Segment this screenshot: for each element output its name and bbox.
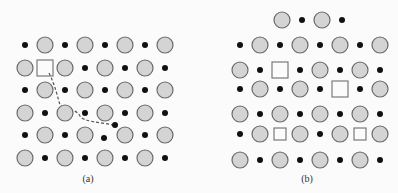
- cation-dot: [317, 131, 323, 137]
- cation-dot: [122, 65, 128, 71]
- cation-dot: [62, 42, 68, 48]
- cation-dot: [62, 87, 68, 93]
- cation-dot: [102, 42, 108, 48]
- anion-circle: [312, 152, 328, 168]
- anion-circle: [137, 150, 153, 166]
- lattice-diagram: [0, 0, 398, 193]
- cation-dot: [42, 155, 48, 161]
- anion-circle: [352, 152, 368, 168]
- cation-dot: [357, 42, 363, 48]
- cation-dot: [162, 110, 168, 116]
- anion-circle: [252, 37, 268, 53]
- cation-dot: [337, 67, 343, 73]
- cation-dot: [82, 65, 88, 71]
- cation-vacancy-square: [274, 128, 286, 140]
- cation-dot: [237, 86, 243, 92]
- cation-dot: [112, 122, 118, 128]
- anion-circle: [117, 37, 133, 53]
- cation-dot: [62, 132, 68, 138]
- cation-dot: [337, 157, 343, 163]
- cation-dot: [337, 111, 343, 117]
- anion-circle: [292, 81, 308, 97]
- anion-circle: [274, 12, 290, 28]
- anion-circle: [57, 60, 73, 76]
- anion-circle: [97, 105, 113, 121]
- anion-circle: [292, 37, 308, 53]
- cation-dot: [162, 155, 168, 161]
- cation-dot: [22, 87, 28, 93]
- anion-circle: [232, 152, 248, 168]
- cation-dot: [297, 111, 303, 117]
- panel-b-label: (b): [301, 173, 313, 184]
- cation-dot: [299, 17, 305, 23]
- cation-dot: [237, 42, 243, 48]
- cation-dot: [82, 155, 88, 161]
- anion-circle: [272, 106, 288, 122]
- anion-circle: [37, 37, 53, 53]
- cation-dot: [101, 135, 107, 141]
- anion-circle: [157, 37, 173, 53]
- anion-circle: [77, 37, 93, 53]
- anion-circle: [272, 152, 288, 168]
- anion-circle: [117, 127, 133, 143]
- anion-circle: [252, 81, 268, 97]
- anion-circle: [97, 60, 113, 76]
- anion-circle: [17, 60, 33, 76]
- cation-dot: [162, 65, 168, 71]
- anion-circle: [232, 106, 248, 122]
- cation-dot: [257, 157, 263, 163]
- anion-circle: [352, 106, 368, 122]
- cation-dot: [277, 86, 283, 92]
- anion-circle: [77, 82, 93, 98]
- anion-vacancy-square: [272, 62, 288, 78]
- anion-circle: [57, 150, 73, 166]
- cation-dot: [317, 86, 323, 92]
- anion-vacancy-square: [37, 60, 53, 76]
- anion-circle: [312, 106, 328, 122]
- anion-circle: [37, 127, 53, 143]
- anion-circle: [292, 126, 308, 142]
- panel-a-label: (a): [82, 173, 93, 184]
- anion-circle: [252, 126, 268, 142]
- cation-dot: [142, 42, 148, 48]
- anion-circle: [97, 150, 113, 166]
- anion-circle: [37, 82, 53, 98]
- anion-circle: [137, 60, 153, 76]
- anion-circle: [157, 82, 173, 98]
- anion-circle: [232, 62, 248, 78]
- anion-circle: [77, 127, 93, 143]
- anion-circle: [17, 150, 33, 166]
- anion-circle: [372, 37, 388, 53]
- cation-dot: [22, 42, 28, 48]
- anion-circle: [314, 12, 330, 28]
- cation-dot: [357, 86, 363, 92]
- anion-circle: [332, 126, 348, 142]
- anion-circle: [137, 105, 153, 121]
- cation-dot: [82, 110, 88, 116]
- cation-dot: [339, 17, 345, 23]
- anion-circle: [312, 62, 328, 78]
- cation-dot: [42, 110, 48, 116]
- cation-dot: [142, 132, 148, 138]
- cation-dot: [297, 67, 303, 73]
- anion-circle: [117, 82, 133, 98]
- panel-a-lattice: [17, 37, 173, 166]
- anion-circle: [352, 62, 368, 78]
- cation-dot: [377, 111, 383, 117]
- cation-dot: [122, 110, 128, 116]
- cation-dot: [237, 131, 243, 137]
- cation-dot: [317, 42, 323, 48]
- anion-circle: [17, 105, 33, 121]
- cation-dot: [22, 132, 28, 138]
- cation-dot: [142, 87, 148, 93]
- cation-dot: [377, 157, 383, 163]
- anion-circle: [332, 37, 348, 53]
- cation-dot: [122, 155, 128, 161]
- cation-dot: [277, 42, 283, 48]
- cation-vacancy-square: [354, 128, 366, 140]
- cation-dot: [257, 111, 263, 117]
- panel-b-lattice: [232, 12, 388, 168]
- cation-dot: [102, 87, 108, 93]
- cation-dot: [297, 157, 303, 163]
- cation-dot: [377, 67, 383, 73]
